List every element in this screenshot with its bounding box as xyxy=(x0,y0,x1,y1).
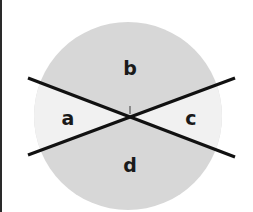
diagram-frame: b a c d xyxy=(0,0,253,212)
label-d: d xyxy=(123,154,137,176)
label-a: a xyxy=(62,107,75,129)
intersecting-lines-circle-diagram: b a c d xyxy=(0,0,253,212)
label-b: b xyxy=(123,57,137,79)
label-c: c xyxy=(185,107,196,129)
